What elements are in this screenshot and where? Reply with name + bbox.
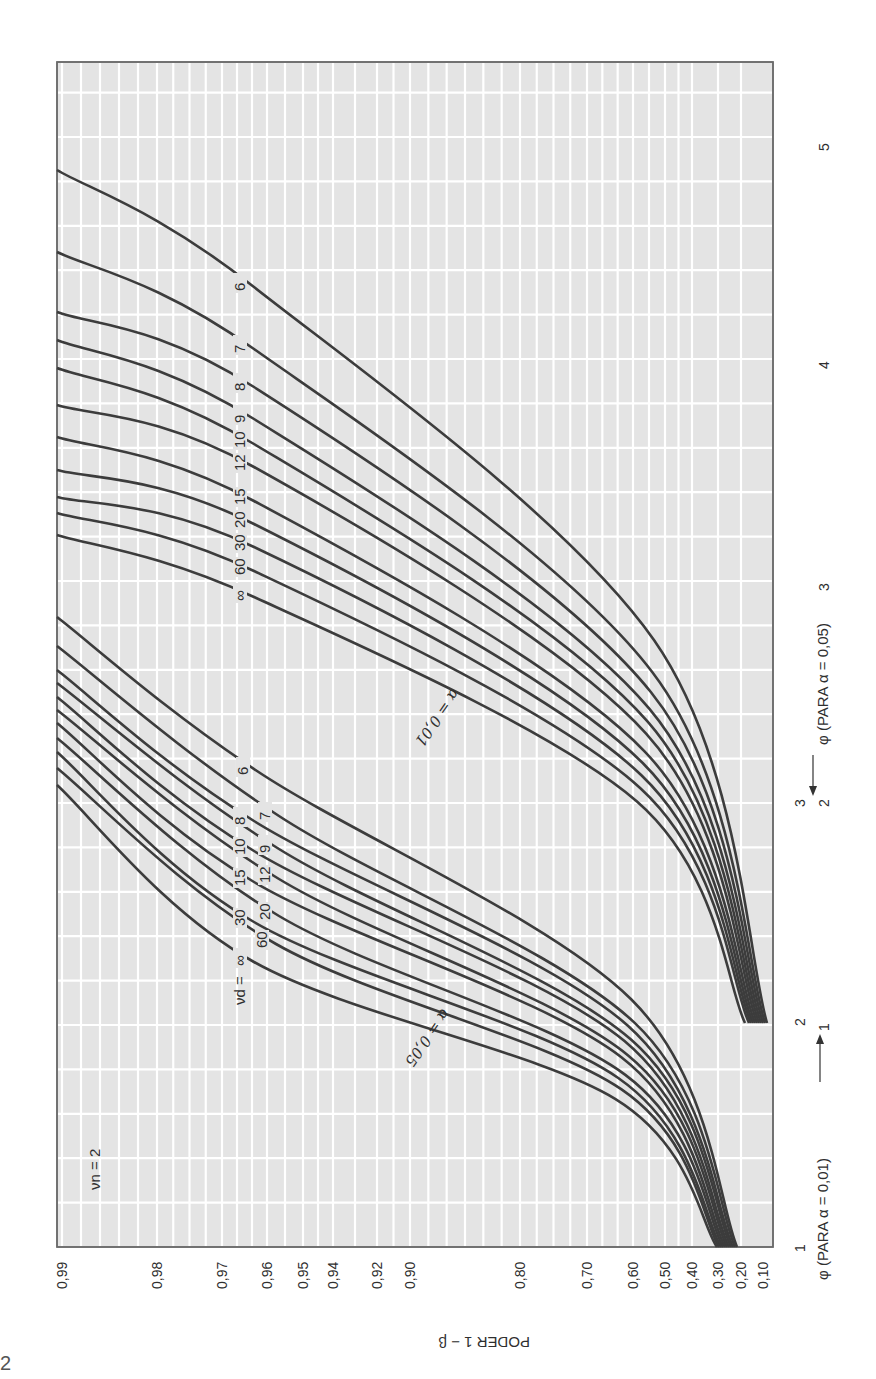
power-tick-label: 0,92 <box>369 1262 385 1289</box>
curve-label: 60 <box>231 558 248 575</box>
power-axis-ticks: 0,990,980,970,960,950,940,920,900,800,70… <box>54 1262 771 1289</box>
phi-tick-alpha005: 2 <box>816 799 832 807</box>
power-tick-label: 0,60 <box>625 1262 641 1289</box>
curve-label: ∞ <box>231 955 248 966</box>
phi-tick-alpha001: 3 <box>792 799 808 807</box>
power-tick-label: 0,90 <box>402 1262 418 1289</box>
power-tick-label: 0,30 <box>710 1262 726 1289</box>
curve-label: 7 <box>231 345 248 353</box>
power-tick-label: 0,94 <box>325 1262 341 1289</box>
curve-label: 7 <box>256 812 273 820</box>
curve-label: 6 <box>234 767 251 775</box>
phi-tick-alpha005: 1 <box>816 1023 832 1031</box>
panel-label-nu-n: νn = 2 <box>86 1149 103 1190</box>
curve-label: 10 <box>231 838 248 855</box>
phi-arrow-alpha005 <box>809 755 817 796</box>
curve-label: ∞ <box>231 590 248 601</box>
curve-label: 20 <box>231 511 248 528</box>
page-number: 2 <box>0 1352 11 1375</box>
curve-label: 15 <box>231 488 248 505</box>
phi-tick-alpha001: 2 <box>792 1018 808 1026</box>
phi-tick-alpha001: 1 <box>792 1244 808 1252</box>
power-axis-title: PODER 1 − β <box>438 1334 530 1351</box>
curve-label: 60 <box>253 931 270 948</box>
curve-label: 10 <box>231 431 248 448</box>
power-curve-chart: 6789101215203060∞6789101215203060∞ 0,990… <box>0 0 876 1379</box>
curve-label: 8 <box>231 383 248 391</box>
power-tick-label: 0,20 <box>733 1262 749 1289</box>
power-tick-label: 0,10 <box>755 1262 771 1289</box>
power-tick-label: 0,97 <box>214 1262 230 1289</box>
phi-arrow-alpha001 <box>816 1034 824 1082</box>
phi-axis-title-alpha005: φ (PARA α = 0,05) <box>814 623 831 745</box>
phi-tick-alpha005: 3 <box>816 583 832 591</box>
curve-label: 9 <box>256 845 273 853</box>
curve-label: 8 <box>231 817 248 825</box>
curve-label: 15 <box>231 869 248 886</box>
phi-axis-title-alpha001: φ (PARA α = 0,01) <box>814 1158 831 1280</box>
power-tick-label: 0,80 <box>512 1262 528 1289</box>
power-tick-label: 0,50 <box>657 1262 673 1289</box>
power-tick-label: 0,70 <box>579 1262 595 1289</box>
curve-label: 30 <box>231 909 248 926</box>
curve-label: 6 <box>231 283 248 291</box>
power-tick-label: 0,99 <box>54 1262 70 1289</box>
curve-label: 12 <box>231 454 248 471</box>
curve-label: 20 <box>256 903 273 920</box>
curve-label: 30 <box>231 534 248 551</box>
power-tick-label: 0,95 <box>295 1262 311 1289</box>
phi-tick-alpha005: 4 <box>816 361 832 369</box>
curve-label: 9 <box>231 415 248 423</box>
power-tick-label: 0,96 <box>259 1262 275 1289</box>
curve-label: 12 <box>256 866 273 883</box>
nu-d-prefix-label: νd = <box>231 976 248 1005</box>
phi-tick-alpha005: 5 <box>816 143 832 151</box>
power-tick-label: 0,98 <box>149 1262 165 1289</box>
power-tick-label: 0,40 <box>684 1262 700 1289</box>
